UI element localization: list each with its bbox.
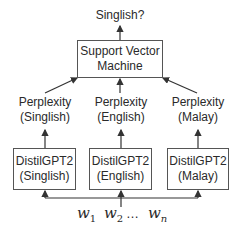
svm-box: Support Vector Machine — [77, 40, 163, 78]
input-ellipsis: … — [126, 206, 139, 221]
model-name: DistilGPT2 — [16, 154, 73, 169]
perplexity-malay: Perplexity (Malay) — [158, 95, 238, 125]
model-language: (Singlish) — [19, 169, 69, 184]
model-box-malay: DistilGPT2 (Malay) — [167, 148, 229, 190]
perplexity-label: Perplexity — [81, 95, 161, 110]
perplexity-label: Perplexity — [158, 95, 238, 110]
svm-line1: Support Vector — [80, 44, 159, 59]
model-language: (Malay) — [178, 169, 218, 184]
perplexity-language: (Malay) — [158, 110, 238, 125]
model-language: (English) — [97, 169, 144, 184]
perplexity-label: Perplexity — [5, 95, 85, 110]
perplexity-singlish: Perplexity (Singlish) — [5, 95, 85, 125]
perplexity-language: (English) — [81, 110, 161, 125]
input-token-w2: w2 — [104, 204, 123, 224]
model-box-english: DistilGPT2 (English) — [89, 148, 152, 190]
perplexity-language: (Singlish) — [5, 110, 85, 125]
model-name: DistilGPT2 — [169, 154, 226, 169]
svm-line2: Machine — [97, 59, 142, 74]
perplexity-english: Perplexity (English) — [81, 95, 161, 125]
input-token-wn: wn — [148, 204, 167, 224]
model-box-singlish: DistilGPT2 (Singlish) — [13, 148, 76, 190]
input-token-w1: w1 — [77, 204, 96, 224]
output-label: Singlish? — [80, 8, 160, 23]
model-name: DistilGPT2 — [92, 154, 149, 169]
